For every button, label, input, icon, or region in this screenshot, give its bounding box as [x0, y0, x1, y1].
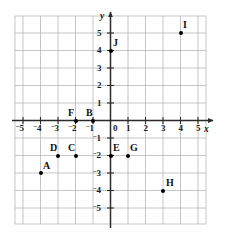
- y-tick-label-neg2: −2: [93, 151, 101, 160]
- data-point-D[interactable]: [56, 154, 60, 158]
- data-point-label-E: E: [113, 143, 120, 153]
- x-tick-label-4: 4: [179, 124, 184, 133]
- data-point-label-C: C: [68, 143, 75, 153]
- x-tick-label-5: 5: [196, 124, 201, 133]
- data-point-B[interactable]: [91, 119, 95, 123]
- y-tick-label-4: 4: [97, 46, 102, 55]
- y-tick-label-neg3: −3: [93, 169, 101, 178]
- grid-and-axes: [0, 0, 227, 235]
- data-point-label-D: D: [50, 143, 57, 153]
- x-tick-label-neg4: −4: [34, 124, 42, 133]
- y-tick-label-5: 5: [97, 29, 102, 38]
- y-tick-label-3: 3: [97, 64, 102, 73]
- data-point-label-J: J: [113, 38, 118, 48]
- data-point-label-I: I: [183, 20, 187, 30]
- data-point-E[interactable]: [109, 154, 113, 158]
- x-tick-label-neg1: −1: [86, 124, 94, 133]
- y-tick-label-neg1: −1: [93, 134, 101, 143]
- y-tick-label-neg4: −4: [93, 186, 101, 195]
- plot-area: −5 −4 −3 −2 −1 0 1 2 3 4 5 5 4 3 2 1 −1 …: [0, 0, 227, 235]
- x-tick-label-2: 2: [144, 124, 149, 133]
- data-point-J[interactable]: [109, 49, 113, 53]
- y-axis-label: y: [100, 12, 104, 22]
- data-point-label-F: F: [68, 108, 74, 118]
- data-point-F[interactable]: [74, 119, 78, 123]
- x-tick-label-neg2: −2: [69, 124, 77, 133]
- coordinate-plane-figure: −5 −4 −3 −2 −1 0 1 2 3 4 5 5 4 3 2 1 −1 …: [0, 0, 227, 235]
- y-tick-label-neg5: −5: [93, 204, 101, 213]
- x-tick-label-neg3: −3: [51, 124, 59, 133]
- x-tick-label-0: 0: [113, 124, 118, 133]
- data-point-I[interactable]: [179, 31, 183, 35]
- data-point-C[interactable]: [74, 154, 78, 158]
- data-point-H[interactable]: [161, 189, 165, 193]
- data-point-G[interactable]: [126, 154, 130, 158]
- data-point-label-A: A: [43, 161, 50, 171]
- data-point-label-G: G: [130, 143, 138, 153]
- data-point-label-B: B: [86, 108, 93, 118]
- x-tick-label-3: 3: [161, 124, 166, 133]
- data-point-label-H: H: [166, 178, 174, 188]
- x-tick-label-1: 1: [126, 124, 131, 133]
- y-tick-label-1: 1: [97, 99, 102, 108]
- data-point-A[interactable]: [39, 171, 43, 175]
- x-axis-label: x: [204, 125, 209, 135]
- y-tick-label-2: 2: [97, 81, 102, 90]
- x-tick-label-neg5: −5: [16, 124, 24, 133]
